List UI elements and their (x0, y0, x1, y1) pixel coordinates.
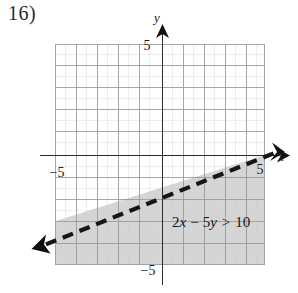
ineq-var-y: y (208, 214, 217, 230)
ineq-var-x: x (179, 214, 187, 230)
tick-label-x-negative: −5 (50, 165, 65, 180)
x-axis-label: x (277, 149, 284, 164)
ineq-coef-y: 5 (203, 214, 211, 230)
tick-label-y-negative: −5 (141, 263, 156, 278)
ineq-coef-x: 2 (172, 214, 180, 230)
graph-figure: x y 5 −5 5 −5 2x−5y>10 (0, 0, 298, 293)
ineq-constant: 10 (235, 214, 250, 230)
tick-label-x-positive: 5 (257, 162, 264, 177)
ineq-relation: > (222, 214, 230, 230)
coordinate-plane-svg: x y 5 −5 5 −5 2x−5y>10 (0, 0, 298, 293)
y-axis-label: y (152, 10, 160, 25)
tick-label-y-positive: 5 (144, 38, 151, 53)
inequality-annotation: 2x−5y>10 (172, 214, 250, 230)
ineq-minus: − (190, 214, 198, 230)
worksheet-page: 16) (0, 0, 298, 293)
